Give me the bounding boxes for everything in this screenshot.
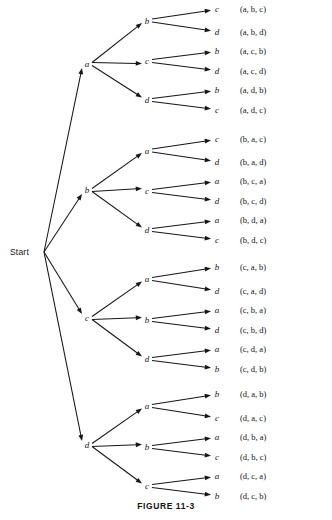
- edge-dc-to-b-shaft: [152, 488, 206, 495]
- edge-a-to-d-arrowhead: [135, 92, 142, 97]
- edge-ca-to-b-shaft: [152, 269, 206, 278]
- node-level2-c-a: a: [145, 274, 150, 284]
- edge-ad-to-b-shaft: [152, 92, 206, 99]
- edge-da-to-c-arrowhead: [205, 413, 211, 418]
- edge-da-to-b-shaft: [152, 396, 206, 405]
- edge-c-to-b-arrowhead: [136, 315, 142, 320]
- figure-container: abcdcbddbcbacdcaddaccabdbaddabdabcbaccab…: [0, 0, 332, 520]
- edge-ba-to-c-arrowhead: [205, 139, 211, 144]
- tree-diagram-canvas: abcdcbddbcbacdcaddaccabdbaddabdabcbaccab…: [0, 0, 332, 520]
- node-leaf-a-c-d: d: [215, 66, 220, 76]
- outcome-tuple: (c, b, a): [240, 305, 266, 315]
- node-level2-a-d: d: [145, 95, 150, 105]
- edge-d-to-c-shaft: [92, 447, 138, 481]
- edge-ad-to-c-shaft: [152, 102, 206, 109]
- edge-ab-to-c-arrowhead: [205, 9, 211, 14]
- node-level2-b-d: d: [145, 225, 150, 235]
- edge-db-to-a-arrowhead: [205, 437, 211, 442]
- outcome-tuple: (a, b, c): [240, 4, 266, 14]
- edge-a-to-d-shaft: [92, 66, 138, 95]
- outcome-tuple: (d, a, b): [240, 389, 267, 399]
- edge-cd-to-a-shaft: [152, 351, 206, 358]
- node-leaf-b-c-a: a: [215, 176, 220, 186]
- outcome-tuple: (c, a, d): [240, 286, 266, 296]
- edge-a-to-c-arrowhead: [136, 61, 142, 66]
- edge-cb-to-a-shaft: [152, 312, 206, 319]
- node-leaf-c-d-a: a: [215, 344, 220, 354]
- edge-b-to-d-shaft: [92, 192, 138, 225]
- outcome-tuple: (d, b, a): [240, 432, 267, 442]
- edge-ba-to-d-arrowhead: [205, 158, 211, 163]
- outcome-tuple: (b, c, d): [240, 196, 267, 206]
- edge-bd-to-c-arrowhead: [205, 236, 211, 241]
- edge-db-to-a-shaft: [152, 439, 206, 446]
- outcome-tuple: (b, a, d): [240, 157, 267, 167]
- edge-da-to-b-arrowhead: [205, 394, 211, 399]
- node-level2-d-c: c: [145, 481, 149, 491]
- edge-bc-to-a-arrowhead: [205, 181, 211, 186]
- node-leaf-d-a-c: c: [215, 413, 219, 423]
- edge-c-to-b-shaft: [92, 318, 137, 320]
- tree-nodes-layer: abcdcbddbcbacdcaddaccabdbaddabdabcbaccab: [85, 4, 220, 501]
- edge-d-to-a-shaft: [92, 411, 138, 443]
- outcome-tuple: (c, d, b): [240, 364, 267, 374]
- node-leaf-d-b-c: c: [215, 452, 219, 462]
- outcome-tuple: (c, b, d): [240, 325, 267, 335]
- figure-caption: FIGURE 11-3: [137, 501, 195, 511]
- outcome-tuple: (d, c, b): [240, 491, 267, 501]
- edge-db-to-c-arrowhead: [205, 453, 211, 458]
- edge-c-to-d-arrowhead: [136, 351, 142, 357]
- node-level1-c: c: [85, 313, 89, 323]
- node-leaf-d-b-a: a: [215, 432, 220, 442]
- edge-a-to-b-shaft: [92, 26, 138, 62]
- node-leaf-a-b-d: d: [215, 27, 220, 37]
- edge-c-to-d-shaft: [92, 320, 138, 354]
- node-leaf-c-a-b: b: [215, 262, 220, 272]
- edge-cd-to-b-shaft: [152, 361, 206, 368]
- node-leaf-a-b-c: c: [215, 4, 219, 14]
- edge-cb-to-a-arrowhead: [205, 310, 211, 315]
- edge-ba-to-d-shaft: [152, 152, 206, 160]
- outcome-tuples-layer: (a, b, c)(a, b, d)(a, c, b)(a, c, d)(a, …: [240, 4, 267, 501]
- edge-ca-to-d-shaft: [152, 281, 206, 290]
- edge-start-to-b-arrowhead: [77, 194, 82, 201]
- node-leaf-c-d-b: b: [215, 364, 220, 374]
- node-leaf-c-b-a: a: [215, 305, 220, 315]
- edge-c-to-a-shaft: [92, 284, 138, 316]
- edge-start-to-d-arrowhead: [78, 434, 83, 441]
- edge-db-to-c-shaft: [152, 449, 206, 456]
- edge-d-to-a-arrowhead: [136, 409, 142, 415]
- node-level2-a-c: c: [145, 56, 149, 66]
- outcome-tuple: (b, d, a): [240, 215, 267, 225]
- outcome-tuple: (a, d, b): [240, 85, 267, 95]
- outcome-tuple: (d, c, a): [240, 471, 266, 481]
- edge-ad-to-b-arrowhead: [205, 90, 211, 95]
- start-node-label: Start: [10, 247, 29, 257]
- edge-start-to-a-shaft: [44, 73, 81, 252]
- edge-bc-to-d-arrowhead: [205, 197, 211, 202]
- edge-ab-to-c-shaft: [152, 11, 206, 19]
- edge-ac-to-d-shaft: [152, 63, 206, 70]
- edge-dc-to-b-arrowhead: [205, 492, 211, 497]
- edge-cb-to-d-shaft: [152, 322, 206, 329]
- edge-ca-to-d-arrowhead: [205, 286, 211, 291]
- edge-cd-to-a-arrowhead: [205, 349, 211, 354]
- outcome-tuple: (a, c, b): [240, 46, 266, 56]
- outcome-tuple: (c, a, b): [240, 262, 266, 272]
- edge-start-to-a-arrowhead: [78, 68, 83, 75]
- edge-ab-to-d-shaft: [152, 22, 206, 30]
- node-level1-b: b: [85, 185, 90, 195]
- edge-d-to-b-arrowhead: [136, 442, 142, 447]
- edge-b-to-a-arrowhead: [136, 153, 142, 159]
- edge-b-to-a-shaft: [92, 156, 138, 189]
- outcome-tuple: (c, d, a): [240, 344, 266, 354]
- node-level2-c-d: d: [145, 354, 150, 364]
- node-level2-d-b: b: [145, 442, 150, 452]
- edge-bc-to-d-shaft: [152, 193, 206, 200]
- edge-bd-to-a-arrowhead: [205, 220, 211, 225]
- tree-edges-layer: [44, 9, 211, 497]
- edge-d-to-c-arrowhead: [136, 478, 142, 484]
- node-level2-b-a: a: [145, 146, 150, 156]
- node-leaf-b-d-a: a: [215, 215, 220, 225]
- node-level2-b-c: c: [145, 186, 149, 196]
